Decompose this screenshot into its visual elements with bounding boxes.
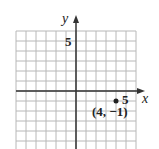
y-axis-label: y <box>62 12 68 26</box>
point-label: (4, −1) <box>92 105 128 118</box>
x-axis-label: x <box>142 92 148 106</box>
y-tick-label-5: 5 <box>65 35 72 48</box>
y-axis-arrow-icon <box>73 15 79 23</box>
data-points <box>114 99 119 104</box>
data-point <box>114 99 119 104</box>
coordinate-plane <box>0 0 159 149</box>
